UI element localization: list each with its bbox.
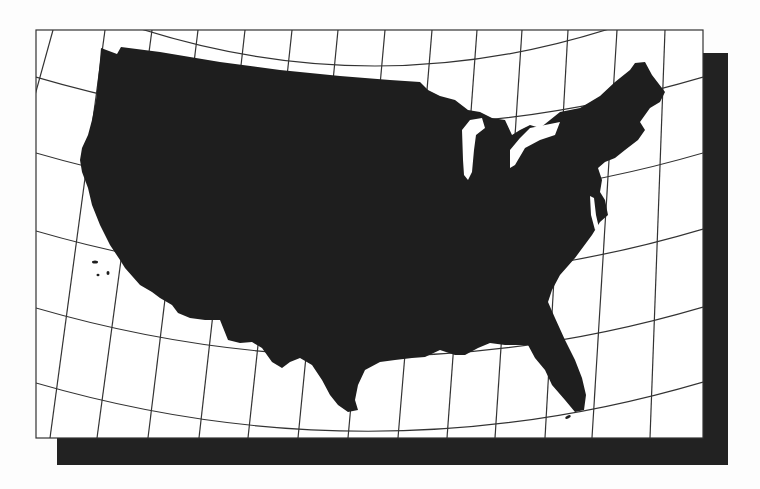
- map-figure: [0, 0, 760, 489]
